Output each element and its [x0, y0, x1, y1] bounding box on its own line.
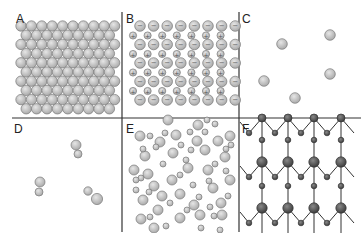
large-atom: [284, 114, 292, 122]
metal-atom: [89, 39, 99, 49]
molecule-atom: [198, 225, 204, 231]
gas-atom: [325, 69, 336, 80]
molecule-atom: [133, 177, 139, 183]
metal-atom: [16, 76, 26, 86]
svg-text:−: −: [164, 96, 170, 104]
metal-atom: [94, 67, 104, 77]
molecule-atom: [206, 178, 212, 184]
metal-atom: [37, 21, 47, 31]
metal-atom: [78, 58, 88, 68]
gas-atom: [35, 188, 43, 196]
svg-text:+: +: [218, 88, 223, 95]
metal-atom: [31, 67, 41, 77]
molecule-atom: [225, 131, 235, 141]
small-atom: [259, 137, 265, 143]
metal-atom: [99, 94, 109, 104]
large-atom: [309, 203, 319, 213]
svg-text:−: −: [232, 59, 238, 67]
molecule-atom: [177, 172, 183, 178]
metal-atom: [57, 21, 67, 31]
metal-atom: [52, 85, 62, 95]
molecule-atom: [192, 136, 202, 146]
svg-text:+: +: [160, 69, 165, 76]
small-atom: [324, 130, 330, 136]
metal-atom: [68, 58, 78, 68]
metal-atom: [104, 67, 114, 77]
svg-text:−: −: [151, 78, 157, 86]
svg-text:−: −: [232, 96, 238, 104]
svg-text:+: +: [174, 32, 179, 39]
metal-atom: [83, 67, 93, 77]
metal-atom: [89, 76, 99, 86]
svg-text:−: −: [137, 59, 143, 67]
metal-atom: [68, 94, 78, 104]
metal-atom: [57, 58, 67, 68]
metal-atom: [42, 85, 52, 95]
molecule-atom: [225, 193, 231, 199]
metal-atom: [52, 30, 62, 40]
metal-atom: [94, 85, 104, 95]
molecule-atom: [184, 207, 190, 213]
metal-atom: [57, 94, 67, 104]
metal-atom: [68, 76, 78, 86]
molecule-atom: [175, 213, 185, 223]
svg-text:−: −: [191, 22, 197, 30]
panel-label-f: F: [242, 123, 249, 135]
molecule-atom: [157, 191, 167, 201]
large-atom: [309, 157, 319, 167]
small-atom: [298, 220, 304, 226]
small-atom: [285, 183, 291, 189]
metal-atom: [26, 76, 36, 86]
svg-text:+: +: [174, 51, 179, 58]
small-atom: [311, 137, 317, 143]
svg-text:+: +: [203, 88, 208, 95]
metal-atom: [63, 67, 73, 77]
svg-text:−: −: [219, 96, 225, 104]
metal-atom: [94, 104, 104, 114]
molecule-atom: [188, 147, 194, 153]
svg-text:+: +: [145, 88, 150, 95]
molecule-atom: [217, 210, 227, 220]
svg-text:+: +: [174, 69, 179, 76]
metal-atom: [52, 104, 62, 114]
svg-text:−: −: [164, 59, 170, 67]
molecule-atom: [187, 129, 193, 135]
svg-text:+: +: [160, 32, 165, 39]
metal-atom: [78, 39, 88, 49]
svg-text:+: +: [130, 32, 135, 39]
molecule-atom: [216, 198, 226, 208]
metal-atom: [31, 104, 41, 114]
svg-text:+: +: [218, 51, 223, 58]
molecule-atom: [143, 169, 153, 179]
molecule-atom: [138, 195, 148, 205]
molecule-atom: [203, 165, 213, 175]
svg-text:−: −: [191, 78, 197, 86]
metal-atom: [68, 39, 78, 49]
molecule-atom: [129, 165, 139, 175]
metal-atom: [78, 94, 88, 104]
svg-text:−: −: [137, 96, 143, 104]
molecule-atom: [136, 214, 146, 224]
svg-text:−: −: [164, 78, 170, 86]
svg-text:−: −: [205, 78, 211, 86]
svg-text:−: −: [205, 96, 211, 104]
large-atom: [258, 114, 266, 122]
metal-atom: [37, 39, 47, 49]
metal-atom: [26, 58, 36, 68]
large-atom: [283, 203, 293, 213]
svg-text:−: −: [205, 41, 211, 49]
svg-text:+: +: [203, 32, 208, 39]
svg-text:+: +: [145, 51, 150, 58]
large-atom: [337, 114, 345, 122]
metal-atom: [109, 21, 119, 31]
svg-text:+: +: [145, 69, 150, 76]
metal-atom: [83, 104, 93, 114]
panel-e-disordered-molecules: [129, 115, 235, 233]
metal-atom: [94, 48, 104, 58]
svg-text:+: +: [145, 32, 150, 39]
metal-atom: [78, 76, 88, 86]
panel-label-b: B: [126, 13, 134, 25]
svg-text:+: +: [189, 51, 194, 58]
metal-atom: [31, 48, 41, 58]
large-atom: [336, 203, 346, 213]
